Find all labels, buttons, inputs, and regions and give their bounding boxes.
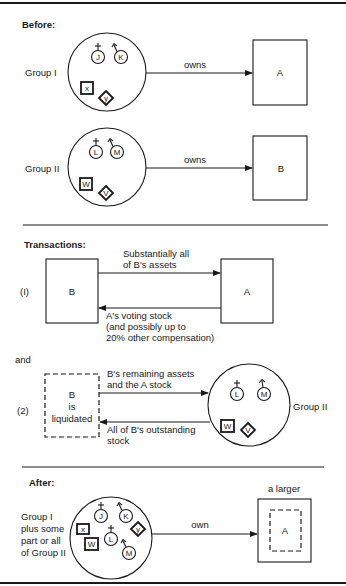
member-w: W xyxy=(224,422,232,431)
liquidated-line-1: B xyxy=(69,389,75,400)
step-1-a-label: A xyxy=(244,286,251,297)
member-k: K xyxy=(123,512,129,521)
liquidated-line-2: is xyxy=(69,401,76,412)
corporation-square-icon: W xyxy=(80,178,92,190)
stock-label-line-2: (and possibly up to xyxy=(106,321,186,332)
transaction-step-2: (2) B is liquidated B's remaining assets… xyxy=(17,364,327,446)
step-1-b-label: B xyxy=(69,286,75,297)
corporation-square-icon: W xyxy=(85,538,98,550)
person-cross-icon: L xyxy=(231,380,244,401)
member-l: L xyxy=(94,148,99,157)
person-arrow-icon: K xyxy=(112,44,128,64)
person-arrow-icon: M xyxy=(258,380,271,401)
owns-label-2: owns xyxy=(184,154,206,165)
stock-label-line-1: A's voting stock xyxy=(106,310,172,321)
distribution-label-line-1: B's remaining assets xyxy=(107,368,195,379)
after-heading: After: xyxy=(29,477,54,488)
person-arrow-icon: M xyxy=(108,139,124,159)
corporation-a-label: A xyxy=(277,67,284,78)
group-2-label-step-2: Group II xyxy=(293,401,327,412)
before-section: Before: Group I J K x xyxy=(22,19,307,206)
liquidated-line-3: liquidated xyxy=(52,413,93,424)
member-j: J xyxy=(96,53,100,62)
transactions-heading: Transactions: xyxy=(24,239,86,250)
member-m: M xyxy=(126,549,133,558)
before-heading: Before: xyxy=(22,19,55,30)
after-group-label-line-3: part or all xyxy=(21,535,61,546)
person-cross-icon: J xyxy=(95,502,108,523)
surrender-label-line-1: All of B's outstanding xyxy=(107,424,195,435)
member-y: y xyxy=(136,525,140,534)
corporation-b-label: B xyxy=(278,163,284,174)
assets-label-line-2: of B's assets xyxy=(123,259,177,270)
own-label: own xyxy=(191,519,208,530)
transaction-step-1: (I) B A Substantially all of B's assets … xyxy=(20,248,273,343)
member-k: K xyxy=(118,53,124,62)
step-1-number: (I) xyxy=(20,286,29,297)
after-section: After: Group I plus some part or all of … xyxy=(21,477,311,579)
group-1: Group I J K x xyxy=(25,33,307,111)
corporation-diamond-icon: V xyxy=(241,423,255,437)
person-arrow-icon: M xyxy=(121,540,136,560)
member-w: W xyxy=(88,540,96,549)
corporation-square-icon: x xyxy=(81,82,93,94)
and-connector: and xyxy=(15,354,31,365)
stock-label-line-3: 20% other compensation) xyxy=(106,332,214,343)
member-l: L xyxy=(109,535,114,544)
member-m: M xyxy=(261,390,268,399)
corporation-square-icon: W xyxy=(221,420,234,432)
member-m: M xyxy=(114,148,121,157)
surrender-label-line-2: stock xyxy=(107,435,129,446)
corporation-diamond-icon: y xyxy=(131,522,145,536)
corporation-diamond-icon: y xyxy=(99,91,113,105)
person-arrow-icon: K xyxy=(117,503,133,523)
group-2-label: Group II xyxy=(25,163,59,174)
reorganization-diagram: Before: Group I J K x xyxy=(0,0,346,586)
assets-label-line-1: Substantially all xyxy=(123,248,189,259)
person-cross-icon: L xyxy=(105,525,118,546)
after-group-label-line-4: of Group II xyxy=(21,547,66,558)
owns-label-1: owns xyxy=(184,59,206,70)
larger-caption: a larger xyxy=(268,483,300,494)
group-2: Group II L M W V own xyxy=(25,128,307,206)
member-v: V xyxy=(103,189,109,198)
person-cross-icon: J xyxy=(92,43,105,64)
member-y: y xyxy=(104,94,108,103)
member-v: V xyxy=(245,426,251,435)
group-1-label: Group I xyxy=(25,67,57,78)
member-x: x xyxy=(85,84,89,93)
transactions-section: Transactions: (I) B A Substantially all … xyxy=(15,239,327,446)
person-cross-icon: L xyxy=(90,138,103,159)
after-group-label-line-2: plus some xyxy=(21,523,64,534)
corporation-diamond-icon: V xyxy=(99,186,113,200)
after-group-label-line-1: Group I xyxy=(21,511,53,522)
member-w: W xyxy=(82,180,90,189)
member-l: L xyxy=(235,390,240,399)
step-2-number: (2) xyxy=(17,405,29,416)
distribution-label-line-2: and the A stock xyxy=(107,379,172,390)
member-x: x xyxy=(81,525,85,534)
corporation-square-icon: x xyxy=(77,524,89,534)
after-a-label: A xyxy=(282,525,289,536)
member-j: J xyxy=(99,512,103,521)
